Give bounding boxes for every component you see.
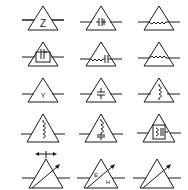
symbol-impedance: Z — [22, 6, 64, 30]
symbol-resistor-2 — [138, 42, 180, 66]
symbol-inductor-capacitor — [79, 114, 123, 142]
symbol-capacitor-box — [22, 42, 64, 66]
symbol-adjustable — [133, 159, 181, 188]
symbol-resistor — [138, 6, 180, 30]
symbol-shunt-capacitor — [80, 78, 122, 102]
triangle — [29, 159, 63, 188]
label-h: H — [106, 179, 110, 185]
symbol-grid: Z — [0, 0, 188, 190]
symbol-capacitor — [80, 6, 122, 30]
symbol-resistor-capacitor — [80, 42, 122, 66]
triangle — [144, 6, 174, 30]
triangle — [143, 114, 175, 142]
triangle — [140, 159, 174, 188]
label-e: E — [94, 172, 98, 178]
symbol-adjustable-eh: E H — [77, 159, 125, 188]
symbol-adjustable-width — [22, 151, 70, 188]
triangle — [86, 42, 116, 66]
double-arrow-icon — [35, 151, 57, 158]
triangle — [144, 42, 174, 66]
symbol-inductor — [21, 114, 65, 142]
symbol-resonator-box — [137, 114, 181, 142]
symbol-admittance: Y — [22, 78, 64, 102]
label-z: Z — [40, 18, 46, 29]
triangle — [84, 159, 118, 188]
label-y: Y — [41, 92, 46, 99]
symbol-shunt-inductor — [138, 78, 180, 102]
triangle — [86, 6, 116, 30]
